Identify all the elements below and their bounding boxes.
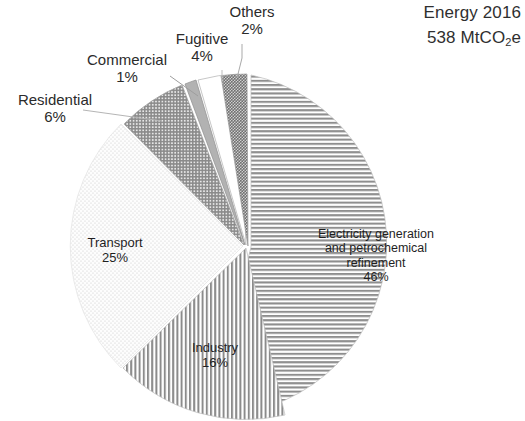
pie-label-residential: Residential 6% <box>0 92 110 126</box>
pie-label-electricity-value: 46% <box>290 270 462 284</box>
chart-subtitle-prefix: 538 MtCO <box>427 28 505 47</box>
pie-label-residential-value: 6% <box>0 109 110 126</box>
chart-subtitle: 538 MtCO2e <box>427 28 521 48</box>
pie-label-industry-name: Industry <box>160 341 270 356</box>
chart-title-text: Energy 2016 <box>423 3 521 22</box>
pie-label-transport-value: 25% <box>60 251 170 266</box>
pie-label-residential-name: Residential <box>0 92 110 109</box>
pie-label-others-name: Others <box>212 4 292 21</box>
chart-title: Energy 2016 <box>423 3 521 23</box>
pie-label-transport-name: Transport <box>60 236 170 251</box>
pie-label-electricity-line2: and petrochemical <box>290 241 462 255</box>
pie-label-transport: Transport 25% <box>60 236 170 266</box>
pie-chart-figure: Energy 2016 538 MtCO2e Others 2% Fugitiv… <box>0 0 525 421</box>
chart-subtitle-subscript: 2 <box>505 36 511 48</box>
pie-label-industry: Industry 16% <box>160 341 270 371</box>
pie-label-electricity-line3: refinement <box>290 256 462 270</box>
chart-subtitle-suffix: e <box>511 28 521 47</box>
pie-label-electricity: Electricity generation and petrochemical… <box>290 227 462 285</box>
pie-label-industry-value: 16% <box>160 356 270 371</box>
pie-label-commercial: Commercial 1% <box>68 52 186 86</box>
pie-label-fugitive-name: Fugitive <box>156 31 248 48</box>
pie-label-electricity-line1: Electricity generation <box>290 227 462 241</box>
pie-label-commercial-name: Commercial <box>68 52 186 69</box>
pie-label-commercial-value: 1% <box>68 69 186 86</box>
